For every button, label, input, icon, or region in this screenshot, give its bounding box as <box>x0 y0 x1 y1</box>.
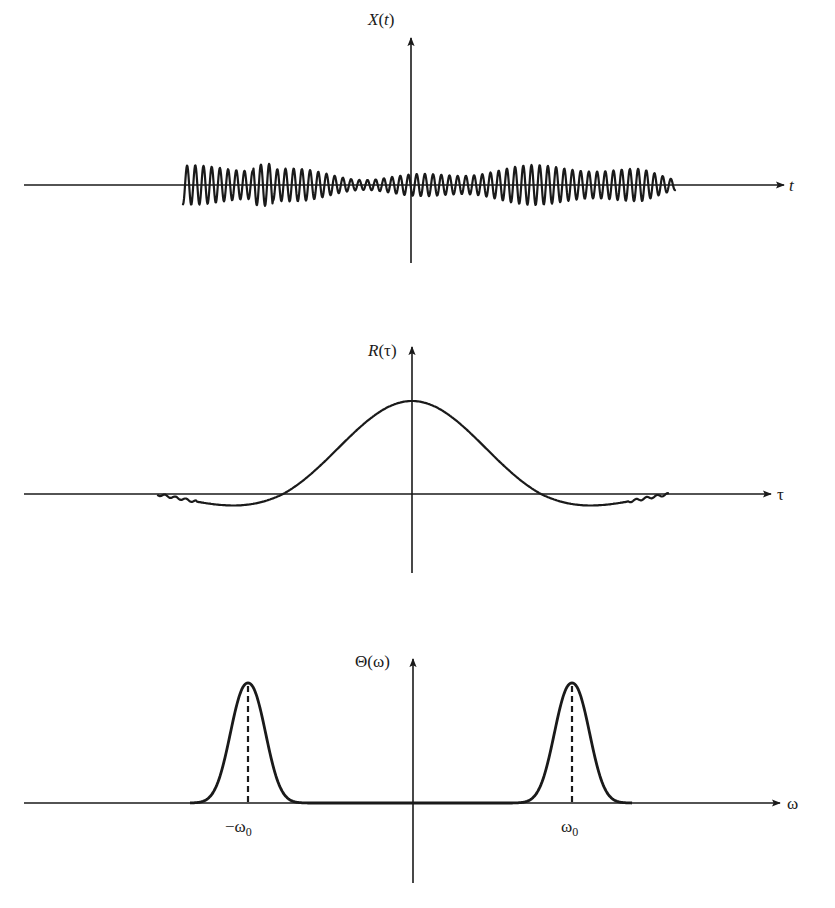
t-axis-label: t <box>789 176 795 195</box>
autocorrelation-curve <box>158 401 668 506</box>
panel-spectrum: Θ(ω) ω −ω0 ω0 <box>24 652 798 883</box>
tau-axis-label: τ <box>777 485 784 504</box>
x-of-t-label: X(t) <box>367 10 394 29</box>
panel-autocorrelation: R(τ) τ <box>24 341 784 573</box>
omega-axis-label: ω <box>787 794 798 813</box>
spectral-density-curve <box>190 683 632 803</box>
theta-of-omega-label: Θ(ω) <box>355 652 390 671</box>
tick-plus-omega0: ω0 <box>561 817 578 839</box>
panel-signal: X(t) t <box>24 10 795 263</box>
narrowband-process-figure: X(t) t R(τ) τ Θ(ω) ω −ω0 ω0 <box>0 0 835 908</box>
r-of-tau-label: R(τ) <box>367 341 397 360</box>
tick-minus-omega0: −ω0 <box>225 817 252 839</box>
